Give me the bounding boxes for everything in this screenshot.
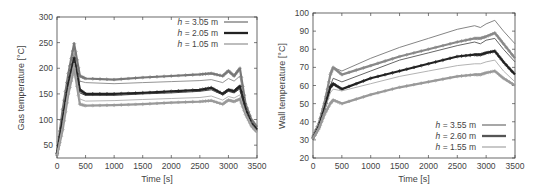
y-tick-label: 50 [300,99,310,109]
x-tick-label: 3000 [219,161,238,171]
legend-label: h = 2.05 m [178,28,218,38]
y-tick-label: 20 [300,153,310,163]
y-axis-label: Wall temperature [°C] [277,43,287,129]
y-tick-label: 50 [44,140,54,150]
x-tick-label: 2000 [162,161,181,171]
x-tick-label: 3000 [477,161,496,171]
series-line [57,68,257,155]
x-tick-label: 1500 [133,161,152,171]
y-tick-label: 60 [300,81,310,91]
x-tick-label: 1500 [390,161,409,171]
wall-temperature-chart: 0500100015002000250030003500203040506070… [277,8,525,184]
legend-label: h = 1.55 m [436,142,476,152]
x-tick-label: 2000 [419,161,438,171]
gas-temperature-chart: 0500100015002000250030003500501001502002… [16,12,267,184]
y-tick-label: 250 [39,38,53,48]
x-axis-label: Time [s] [398,174,430,184]
y-axis-label: Gas temperature [°C] [16,45,26,130]
x-tick-label: 1000 [361,161,380,171]
legend-label: h = 2.60 m [436,131,476,141]
y-tick-label: 70 [300,62,310,72]
y-tick-label: 30 [300,135,310,145]
y-tick-label: 150 [39,89,53,99]
x-tick-label: 3500 [506,161,525,171]
x-tick-label: 1000 [105,161,124,171]
y-tick-label: 40 [300,117,310,127]
y-tick-label: 80 [300,44,310,54]
x-tick-label: 2500 [448,161,467,171]
series-line [57,61,257,154]
x-tick-label: 0 [55,161,60,171]
series-line [57,44,257,153]
x-tick-label: 0 [311,161,316,171]
legend-label: h = 1.05 m [178,39,218,49]
y-tick-label: 200 [39,63,53,73]
legend-label: h = 3.05 m [178,17,218,27]
y-tick-label: 300 [39,12,53,22]
x-tick-label: 3500 [248,161,267,171]
legend-label: h = 3.55 m [436,120,476,130]
x-tick-label: 2500 [190,161,209,171]
charts-figure: 0500100015002000250030003500501001502002… [0,0,545,194]
x-tick-label: 500 [78,161,92,171]
y-tick-label: 100 [39,115,53,125]
x-axis-label: Time [s] [141,174,173,184]
x-tick-label: 500 [335,161,349,171]
plot-frame [57,17,257,158]
y-tick-label: 100 [295,8,309,18]
y-tick-label: 90 [300,26,310,36]
